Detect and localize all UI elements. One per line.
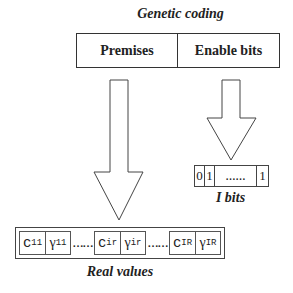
c-gene: cir — [95, 232, 120, 254]
real-values-group: c11 γ11 — [19, 231, 71, 255]
gamma-gene: γ11 — [45, 232, 70, 254]
c-gene: cIR — [170, 232, 195, 254]
real-values-string: c11 γ11 …… cir γir …… cIR γIR — [15, 227, 225, 259]
bit-cell: 1 — [257, 166, 268, 186]
real-values-caption: Real values — [15, 264, 225, 280]
i-bits-caption: I bits — [194, 190, 267, 206]
gamma-gene: γir — [120, 232, 145, 254]
c-gene: c11 — [20, 232, 45, 254]
separator-dots: …… — [146, 231, 169, 255]
separator-dots: …… — [71, 231, 94, 255]
bit-cell: 1 — [205, 166, 215, 186]
real-values-group: cir γir — [94, 231, 146, 255]
bit-ellipsis: …… — [215, 166, 257, 186]
enable-bits-down-arrow-icon — [207, 80, 256, 160]
premises-down-arrow-icon — [94, 80, 143, 220]
real-values-group: cIR γIR — [169, 231, 221, 255]
gamma-gene: γIR — [195, 232, 220, 254]
enable-bits-string: 0 1 …… 1 — [194, 165, 269, 187]
bit-cell: 0 — [195, 166, 205, 186]
